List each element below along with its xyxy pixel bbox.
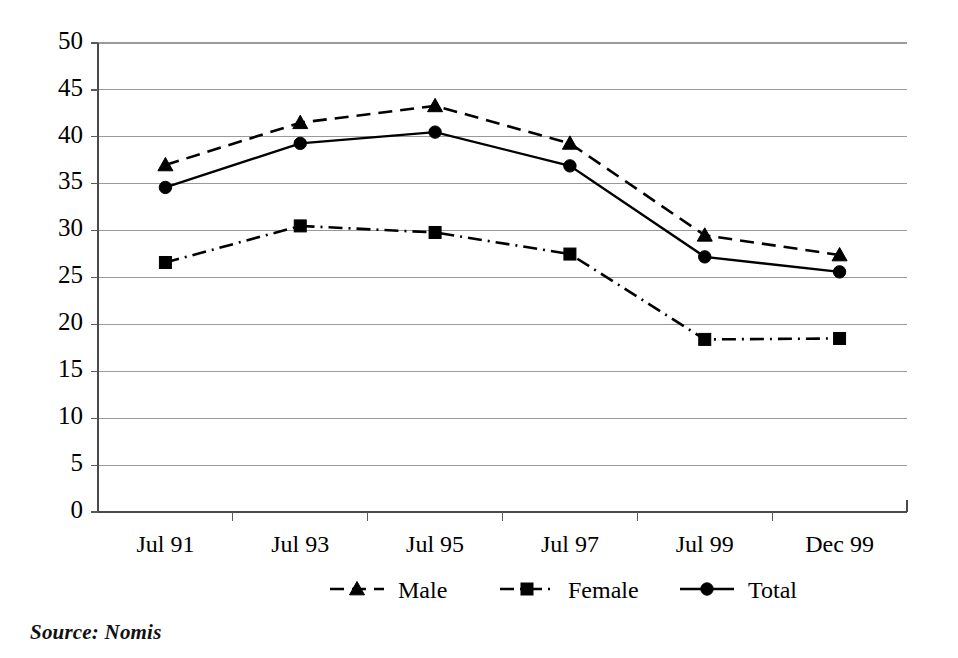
triangle-marker	[428, 98, 443, 111]
series-line-total	[165, 132, 839, 272]
triangle-marker	[562, 136, 577, 149]
x-tick-label: Jul 93	[271, 531, 329, 557]
legend-label-male: Male	[398, 577, 447, 603]
y-tick-label: 0	[71, 496, 84, 523]
y-tick-label: 15	[58, 355, 83, 382]
y-tick-label: 10	[58, 402, 83, 429]
y-tick-label: 5	[71, 449, 84, 476]
source-note: Source: Nomis	[30, 620, 162, 645]
x-tick-label: Dec 99	[805, 531, 874, 557]
legend-item-male[interactable]: Male	[330, 577, 447, 603]
square-marker	[834, 332, 846, 344]
y-tick-label: 35	[58, 167, 83, 194]
square-marker	[294, 220, 306, 232]
data-series	[158, 98, 847, 345]
y-axis-tick-labels: 50454035302520151050	[58, 27, 83, 523]
legend-item-female[interactable]: Female	[500, 577, 639, 603]
x-tick-label: Jul 99	[676, 531, 734, 557]
square-marker	[699, 333, 711, 345]
circle-marker	[159, 181, 171, 193]
square-marker	[521, 583, 533, 595]
circle-marker	[294, 137, 306, 149]
x-tick-label: Jul 95	[406, 531, 464, 557]
y-tick-label: 45	[58, 74, 83, 101]
line-chart-canvas: 50454035302520151050 Jul 91Jul 93Jul 95J…	[0, 0, 958, 658]
x-tick-label: Jul 91	[136, 531, 194, 557]
triangle-marker	[293, 115, 308, 128]
legend-item-total[interactable]: Total	[680, 577, 797, 603]
y-tick-label: 30	[58, 214, 83, 241]
chart-axes	[91, 43, 907, 521]
y-tick-label: 50	[58, 27, 83, 54]
triangle-marker	[697, 228, 712, 241]
series-male	[158, 98, 847, 260]
circle-marker	[833, 266, 845, 278]
square-marker	[159, 256, 171, 268]
y-tick-label: 20	[58, 308, 83, 335]
series-line-female	[165, 226, 839, 339]
legend-label-female: Female	[568, 577, 639, 603]
series-total	[159, 126, 846, 278]
legend-label-total: Total	[748, 577, 797, 603]
series-line-male	[165, 106, 839, 255]
chart-legend: MaleFemaleTotal	[330, 577, 797, 603]
square-marker	[429, 226, 441, 238]
square-marker	[564, 248, 576, 260]
chart-figure: 50454035302520151050 Jul 91Jul 93Jul 95J…	[0, 0, 958, 658]
y-tick-label: 25	[58, 261, 83, 288]
circle-marker	[564, 160, 576, 172]
x-axis-tick-labels: Jul 91Jul 93Jul 95Jul 97Jul 99Dec 99	[136, 531, 873, 557]
series-female	[159, 220, 845, 345]
x-tick-label: Jul 97	[541, 531, 599, 557]
circle-marker	[699, 251, 711, 263]
circle-marker	[701, 583, 713, 595]
gridlines	[98, 43, 907, 465]
y-tick-label: 40	[58, 121, 83, 148]
circle-marker	[429, 126, 441, 138]
